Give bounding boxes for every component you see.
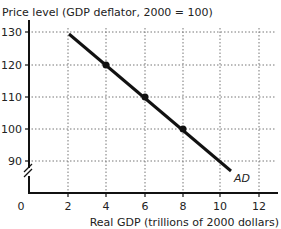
data-point [103,62,110,69]
x-axis-label: Real GDP (trillions of 2000 dollars) [90,216,279,229]
y-axis-label: Price level (GDP deflator, 2000 = 100) [2,6,213,19]
data-point [180,126,187,133]
x-tick-12: 12 [252,200,266,213]
x-tick-2: 2 [65,200,72,213]
ad-curve [69,34,231,171]
y-tick-100: 100 [1,123,22,136]
ticks [25,32,259,197]
y-tick-130: 130 [1,26,22,39]
x-tick-4: 4 [103,200,110,213]
x-tick-10: 10 [213,200,227,213]
x-tick-6: 6 [142,200,149,213]
data-point [142,94,149,101]
ad-label: AD [233,172,250,185]
grid [28,28,275,193]
y-tick-90: 90 [8,155,22,168]
x-tick-8: 8 [180,200,187,213]
y-tick-110: 110 [1,91,22,104]
x-tick-0: 0 [18,200,25,213]
y-tick-120: 120 [1,59,22,72]
ad-chart: Price level (GDP deflator, 2000 = 100) 1… [0,0,281,229]
